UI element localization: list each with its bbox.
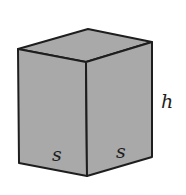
base-edge-label-side: s [116,140,126,162]
prism-drawing: s s h [0,0,186,195]
square-prism-figure: s s h [0,0,186,195]
height-label: h [161,90,173,112]
base-edge-label-front: s [52,143,62,165]
